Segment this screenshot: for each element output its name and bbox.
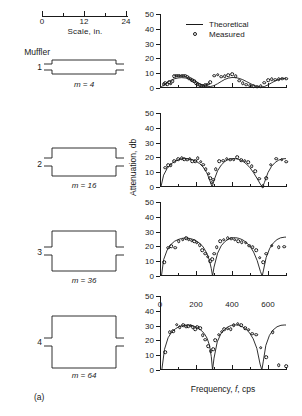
- measured-point: [207, 172, 211, 176]
- y-tick-label-10: 10: [145, 168, 154, 177]
- measured-point: [162, 260, 166, 264]
- y-tick-label-10: 10: [145, 351, 154, 360]
- scale-label-24: 24: [122, 17, 131, 26]
- x-axis-title-suffix: , cps: [237, 384, 255, 394]
- measured-point: [269, 163, 273, 167]
- y-tick-0: [156, 88, 160, 89]
- measured-point: [280, 158, 284, 162]
- muffler-caption-3: m = 36: [44, 276, 124, 285]
- legend-line-icon: [186, 24, 203, 25]
- measured-point: [264, 355, 268, 359]
- measured-point: [271, 330, 275, 334]
- measured-point: [171, 329, 175, 333]
- y-tick-0: [156, 187, 160, 188]
- measured-point: [206, 344, 210, 348]
- measured-point: [211, 347, 215, 351]
- y-tick-label-0: 0: [150, 84, 154, 93]
- measured-point: [264, 177, 268, 181]
- measured-point: [255, 248, 259, 252]
- y-tick-0: [156, 276, 160, 277]
- measured-point: [169, 163, 173, 167]
- measured-point: [206, 255, 210, 259]
- y-tick-label-40: 40: [145, 212, 154, 221]
- measured-point: [198, 243, 202, 247]
- y-tick-label-50: 50: [145, 109, 154, 118]
- y-tick-label-30: 30: [145, 321, 154, 330]
- measured-point: [214, 338, 218, 342]
- muffler-number-3: 3: [8, 247, 42, 257]
- scale-ruler-bar: [42, 8, 128, 17]
- plot-area-3: 01020304050: [160, 202, 286, 276]
- y-tick-label-40: 40: [145, 123, 154, 132]
- measured-point: [261, 184, 265, 188]
- y-tick-label-20: 20: [145, 242, 154, 251]
- measured-point: [277, 363, 281, 367]
- measured-point: [209, 80, 213, 84]
- muffler-shape-3: m = 36: [44, 228, 124, 282]
- measured-point: [257, 177, 261, 181]
- y-tick-label-0: 0: [150, 272, 154, 281]
- chart-legend: Theoretical Measured: [186, 19, 249, 39]
- muffler-caption-4: m = 64: [44, 371, 124, 380]
- scale-tick-labels: 0 12 24: [42, 17, 128, 28]
- measured-point: [270, 244, 274, 248]
- y-tick-label-40: 40: [145, 24, 154, 33]
- y-tick-label-20: 20: [145, 336, 154, 345]
- muffler-caption-4-value: = 64: [78, 371, 96, 380]
- measured-point: [229, 327, 233, 331]
- muffler-number-1: 1: [8, 62, 42, 72]
- scale-label-12: 12: [80, 17, 89, 26]
- scale-label-0: 0: [40, 17, 44, 26]
- measured-point: [259, 346, 263, 350]
- measured-point: [274, 157, 278, 161]
- measured-point: [247, 328, 251, 332]
- muffler-caption-1-value: = 4: [81, 80, 95, 89]
- y-tick-label-50: 50: [145, 292, 154, 301]
- measured-point: [212, 252, 216, 256]
- measured-point: [255, 333, 259, 337]
- muffler-shape-4: m = 64: [44, 313, 124, 379]
- y-tick-label-20: 20: [145, 153, 154, 162]
- measured-point: [284, 160, 288, 164]
- measured-point: [198, 326, 202, 330]
- y-tick-label-50: 50: [145, 10, 154, 19]
- figure-muffler-attenuation: 0 12 24 Scale, in. Muffler 1 2 3 4 m = 4: [0, 0, 302, 416]
- measured-point: [211, 178, 215, 182]
- y-tick-0: [156, 370, 160, 371]
- muffler-caption-2-value: = 16: [78, 181, 96, 190]
- measured-point: [261, 260, 265, 264]
- y-tick-label-10: 10: [145, 69, 154, 78]
- measured-point: [217, 333, 221, 337]
- measured-point: [282, 245, 286, 249]
- measured-point: [234, 75, 238, 79]
- legend-label-theoretical: Theoretical: [209, 20, 249, 29]
- x-axis-title: Frequency, f, cps: [160, 384, 286, 394]
- x-axis-title-prefix: Frequency,: [191, 384, 235, 394]
- measured-point: [264, 252, 268, 256]
- measured-point: [201, 333, 205, 337]
- plot-area-4: 010203040500200400600: [160, 296, 286, 370]
- y-tick-label-30: 30: [145, 39, 154, 48]
- measured-point: [169, 245, 173, 249]
- measured-point: [284, 364, 288, 368]
- measured-point: [277, 245, 281, 249]
- legend-label-measured: Measured: [209, 30, 245, 39]
- legend-entry-theoretical: Theoretical: [186, 19, 249, 29]
- scale-ruler: 0 12 24 Scale, in.: [42, 8, 128, 36]
- y-axis-title: Attenuation, db: [128, 139, 138, 196]
- legend-circle-icon: [186, 30, 203, 38]
- y-tick-label-40: 40: [145, 306, 154, 315]
- measured-point: [214, 167, 218, 171]
- chart-column: Attenuation, db 01020304050 Theoretical …: [132, 0, 302, 416]
- muffler-caption-2: m = 16: [44, 181, 124, 190]
- measured-point: [246, 161, 250, 165]
- measured-point: [250, 332, 254, 336]
- muffler-shape-1: m = 4: [44, 56, 124, 86]
- muffler-caption-1-symbol: m: [74, 80, 81, 89]
- y-tick-label-10: 10: [145, 257, 154, 266]
- legend-entry-measured: Measured: [186, 29, 249, 39]
- x-tick-700: [286, 184, 287, 187]
- muffler-shape-2: m = 16: [44, 145, 124, 187]
- y-tick-label-0: 0: [150, 183, 154, 192]
- muffler-caption-3-value: = 36: [78, 276, 96, 285]
